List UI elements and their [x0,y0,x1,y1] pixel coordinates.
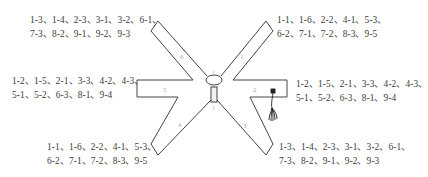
arm-label-4: 4 [178,121,182,129]
label-line: 1-3、1-4、2-3、3-1、3-2、6-1、 [30,13,161,27]
label-middle-left: 1-2、1-5、2-1、3-3、4-2、4-3、 5-1、5-2、6-3、8-1… [12,74,143,102]
label-line: 1-2、1-5、2-1、3-3、4-2、4-3、 [12,74,143,88]
arm-1 [221,21,273,80]
label-line: 6-2、7-1、7-2、8-3、9-5 [277,27,387,41]
arm-label-1: 1 [240,53,244,61]
arm-label-3: 3 [243,122,247,130]
label-line: 1-1、1-6、2-2、4-1、5-3、 [47,140,157,154]
arm-label-6: 6 [180,53,184,61]
label-line: 1-1、1-6、2-2、4-1、5-3、 [277,13,387,27]
label-line: 6-2、7-1、7-2、8-3、9-5 [47,154,157,168]
hub-slot [211,87,217,102]
label-line: 7-3、8-2、9-1、9-2、9-3 [30,27,161,41]
hub-mark-bottom: ! [213,104,215,112]
label-lower-right: 1-3、1-4、2-3、3-1、3-2、6-1、 7-3、8-2、9-1、9-2… [279,140,410,168]
label-middle-right: 1-2、1-5、2-1、3-3、4-2、4-3、 5-1、5-2、6-3、8-1… [296,77,427,105]
label-line: 7-3、8-2、9-1、9-2、9-3 [279,154,410,168]
hub-mark-top: ! [213,69,215,77]
label-line: 1-3、1-4、2-3、3-1、3-2、6-1、 [279,140,410,154]
arm-label-5: 5 [163,86,167,94]
label-line: 1-2、1-5、2-1、3-3、4-2、4-3、 [296,77,427,91]
arm-label-2: 2 [253,86,257,94]
label-line: 5-1、5-2、6-3、8-1、9-4 [12,88,143,102]
label-upper-right: 1-1、1-6、2-2、4-1、5-3、 6-2、7-1、7-2、8-3、9-5 [277,13,387,41]
label-lower-left: 1-1、1-6、2-2、4-1、5-3、 6-2、7-1、7-2、8-3、9-5 [47,140,157,168]
arm-2 [233,80,287,97]
label-line: 5-1、5-2、6-3、8-1、9-4 [296,91,427,105]
cable-icon [269,89,277,121]
label-upper-left: 1-3、1-4、2-3、3-1、3-2、6-1、 7-3、8-2、9-1、9-2… [30,13,161,41]
